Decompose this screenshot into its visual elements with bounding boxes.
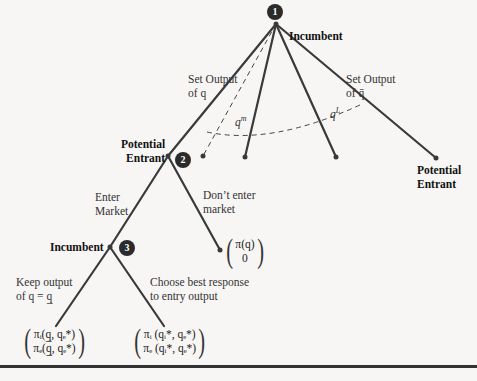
keep-output-label: Keep output of q = q̲ (16, 275, 73, 303)
node-2-player-label: Potential Entrant (121, 137, 165, 165)
terminal-potential-entrant-label: Potential Entrant (417, 163, 461, 191)
qL-label: qL (330, 104, 340, 121)
best-response-label: Choose best response to entry output (150, 275, 249, 303)
node-1-badge: 1 (267, 4, 283, 20)
qm-label: qm (235, 112, 247, 129)
payoff-no-entry: ( π(q)0 ) (224, 234, 266, 268)
node-1-player-label: Incumbent (289, 29, 343, 43)
set-output-qbar-line1: Set Output (346, 72, 396, 86)
set-output-qbar-label: Set Output of q̄ (346, 72, 396, 100)
node-2-badge: 2 (175, 152, 191, 168)
set-output-qbar-line2: of q̄ (346, 86, 396, 100)
dont-enter-label: Don’t enter market (203, 188, 255, 216)
payoff-keep-output: ( πᵢ(q̲, qₑ*)πₑ(q̲, qₑ*) ) (22, 324, 87, 358)
payoff-best-response: ( πᵢ (qᵢ*, qₑ*)πₑ (qᵢ*, qₑ*) ) (132, 324, 208, 358)
set-output-q-label: Set Output of q (188, 72, 238, 100)
bottom-rule (0, 365, 477, 368)
set-output-q-line1: Set Output (188, 72, 238, 86)
enter-market-label: Enter Market (95, 190, 128, 218)
set-output-q-line2: of q (188, 86, 238, 100)
node-3-badge: 3 (119, 240, 135, 256)
node-3-player-label: Incumbent (50, 240, 104, 254)
